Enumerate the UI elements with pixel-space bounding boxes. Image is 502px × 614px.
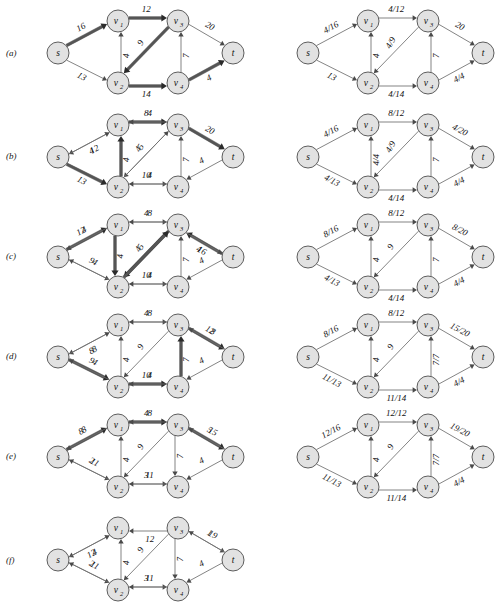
node-label: s xyxy=(56,48,60,58)
edge-t-v4: 4 xyxy=(186,154,222,179)
panel-label: (a) xyxy=(6,48,17,58)
node-v2: v2 xyxy=(107,579,129,601)
edge-label: 9 xyxy=(135,441,146,450)
edge-label: 4 xyxy=(371,456,381,461)
edge-v3-v2: 9 xyxy=(374,331,419,377)
edge-s-v2: 11/13 xyxy=(317,364,357,389)
edge-v2-v1: 4 xyxy=(118,436,131,476)
node-s: s xyxy=(297,146,319,168)
node-t: t xyxy=(222,346,244,368)
residual-network-graph: 412211124931171194sv1v2v3v4t xyxy=(28,508,263,613)
node-label-subscript: 1 xyxy=(120,528,123,535)
edge-label: 4 xyxy=(121,156,131,161)
edge-label: 7 xyxy=(175,453,185,458)
edge-label: 7 xyxy=(181,53,191,58)
edge-label: 7 xyxy=(181,356,191,361)
node-v2: v2 xyxy=(357,476,379,498)
edge-label: 4/14 xyxy=(388,192,405,202)
edge-label: 7 xyxy=(431,156,441,161)
residual-graph-b: 12413844541047204sv1v2v3v4t xyxy=(28,105,263,210)
residual-graph-c: 124944845410471644sv1v2v3v4t xyxy=(28,205,263,310)
node-v4: v4 xyxy=(417,476,439,498)
edge-v4-t: 4/4 xyxy=(439,264,475,289)
edge-label: 8/20 xyxy=(451,221,470,238)
edge-label: 8/12 xyxy=(388,107,405,117)
edge-label: 4 xyxy=(147,169,152,179)
edge-v3-t: 12 xyxy=(189,323,225,349)
panel-b: (b)12413844541047204sv1v2v3v4t4/164/138/… xyxy=(0,107,502,207)
node-v3: v3 xyxy=(417,214,439,236)
edge-label: 4 xyxy=(205,72,214,83)
edge-t-v4: 4 xyxy=(186,254,222,279)
node-v4: v4 xyxy=(417,72,439,94)
node-label-subscript: 3 xyxy=(179,424,184,431)
node-label-subscript: 3 xyxy=(179,124,184,131)
edge-v2-v4: 14 xyxy=(129,82,167,98)
edge-label: 8/16 xyxy=(321,222,340,239)
node-s: s xyxy=(47,246,69,268)
panel-e: (e)88211484931175154sv1v2v3v4t12/1611/13… xyxy=(0,407,502,507)
edge-s-v1: 8/16 xyxy=(317,222,358,249)
edge-v3-t: 4/20 xyxy=(439,121,475,149)
edge-v4-v2: 11 xyxy=(129,573,167,590)
edge-label: 12 xyxy=(145,534,155,544)
node-v1: v1 xyxy=(107,10,129,32)
node-label: t xyxy=(482,152,485,162)
flow-network-graph: 8/1611/138/124911/147/715/204/4sv1v2v3v4… xyxy=(278,305,502,410)
node-label: t xyxy=(232,452,235,462)
flow-graph-b: 4/164/138/124/44/94/1474/204/4sv1v2v3v4t xyxy=(278,105,502,210)
node-label: t xyxy=(232,48,235,58)
edge-label: 4 xyxy=(197,354,206,365)
node-label-subscript: 1 xyxy=(370,124,373,131)
edge-s-v2: 4/13 xyxy=(317,264,357,288)
edge-v3-v2: 4/9 xyxy=(374,27,419,73)
edge-v2-v4: 4/14 xyxy=(379,83,417,98)
edge-v4-v3: 7 xyxy=(428,32,441,72)
node-v1: v1 xyxy=(357,10,379,32)
edge-v3-v4: 7 xyxy=(172,539,185,579)
node-t: t xyxy=(222,446,244,468)
edge-v4-v3: 7/7 xyxy=(428,336,441,376)
edge-v3-v2: 9 xyxy=(374,231,419,277)
edge-label: 8 xyxy=(147,307,152,317)
node-v2: v2 xyxy=(357,276,379,298)
edge-s-v1: 8/16 xyxy=(317,322,358,349)
node-label-subscript: 1 xyxy=(370,324,373,331)
edge-s-v1: 4/16 xyxy=(317,19,358,46)
node-v3: v3 xyxy=(167,114,189,136)
edge-label: 4/20 xyxy=(451,121,470,138)
edge-v4-t: 4 xyxy=(189,60,225,83)
node-v2: v2 xyxy=(357,72,379,94)
edge-label: 9 xyxy=(385,441,396,450)
edge-v3-v4: 7 xyxy=(172,436,185,476)
panel-label: (f) xyxy=(6,555,15,565)
panel-label: (c) xyxy=(6,251,16,261)
node-s: s xyxy=(47,549,69,571)
node-v2: v2 xyxy=(107,276,129,298)
node-s: s xyxy=(47,146,69,168)
edge-label: 13 xyxy=(326,70,339,83)
node-s: s xyxy=(47,42,69,64)
node-label-subscript: 3 xyxy=(179,528,184,535)
edge-v4-v3: 7 xyxy=(177,336,191,376)
node-t: t xyxy=(222,549,244,571)
edge-v4-t: 4/4 xyxy=(439,164,475,189)
edge-label: 4/4 xyxy=(371,153,381,165)
edge-label: 4 xyxy=(121,53,131,58)
node-v1: v1 xyxy=(357,114,379,136)
edge-v1-v3: 8/12 xyxy=(379,107,417,124)
edge-v2-v4: 11/14 xyxy=(379,487,417,502)
node-v4: v4 xyxy=(167,376,189,398)
node-v1: v1 xyxy=(357,414,379,436)
node-t: t xyxy=(222,146,244,168)
node-label-subscript: 1 xyxy=(370,224,373,231)
node-t: t xyxy=(222,246,244,268)
node-v1: v1 xyxy=(107,517,129,539)
edge-v3-v1: 8 xyxy=(129,407,167,424)
residual-graph-f: 412211124931171194sv1v2v3v4t xyxy=(28,508,263,613)
node-label: t xyxy=(482,48,485,58)
node-t: t xyxy=(222,42,244,64)
edge-v3-t: 20 xyxy=(439,19,475,45)
edge-v1-v3: 8/12 xyxy=(379,207,417,224)
node-label: s xyxy=(306,48,310,58)
